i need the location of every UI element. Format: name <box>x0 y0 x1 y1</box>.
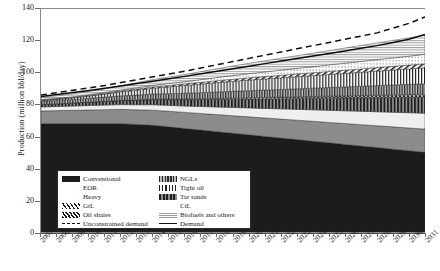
y-axis-tick-label: 40 <box>0 164 34 173</box>
y-axis-tick-label: 120 <box>0 35 34 44</box>
legend-swatch-white-icon <box>62 194 80 200</box>
legend-item-gtl[interactable]: GtL <box>62 201 149 210</box>
y-axis-tick-label: 0 <box>0 228 34 237</box>
legend-swatch-dotted-icon <box>159 203 177 209</box>
legend-label: Conventional <box>83 175 121 183</box>
y-axis-tick-label: 100 <box>0 67 34 76</box>
legend-swatch-horizontal-stripe-icon <box>159 212 177 218</box>
legend-swatch-dashed-line-icon <box>62 221 80 227</box>
legend-label: NGLs <box>180 175 197 183</box>
y-axis-tick-label: 140 <box>0 3 34 12</box>
legend-column-right: NGLsTight oilTar sandsCtLBiofuels and ot… <box>159 174 246 228</box>
legend-swatch-cross-hatch-icon <box>62 212 80 218</box>
legend-label: EOR <box>83 184 97 192</box>
legend-swatch-vertical-stripe-icon <box>159 185 177 191</box>
x-axis-tick-label: 2031 <box>423 227 440 244</box>
legend-swatch-solid-line-icon <box>159 221 177 227</box>
legend-item-heavy[interactable]: Heavy <box>62 192 149 201</box>
legend-item-ctl[interactable]: CtL <box>159 201 246 210</box>
y-axis-tick-label: 60 <box>0 132 34 141</box>
legend-swatch-vertical-wide-icon <box>159 194 177 200</box>
legend-item-oil-shales[interactable]: Oil shales <box>62 210 149 219</box>
legend-item-ngls[interactable]: NGLs <box>159 174 246 183</box>
legend-item-tar-sands[interactable]: Tar sands <box>159 192 246 201</box>
legend-item-demand[interactable]: Demand <box>159 219 246 228</box>
legend-item-biofuels-and-others[interactable]: Biofuels and others <box>159 210 246 219</box>
legend-label: Oil shales <box>83 211 111 219</box>
y-axis-tick-label: 80 <box>0 99 34 108</box>
legend-item-tight-oil[interactable]: Tight oil <box>159 183 246 192</box>
y-axis-tick-label: 20 <box>0 196 34 205</box>
legend-label: GtL <box>83 202 94 210</box>
legend-item-unconstrained-demand[interactable]: Unconstrained demand <box>62 219 149 228</box>
legend-item-conventional[interactable]: Conventional <box>62 174 149 183</box>
legend-swatch-white-icon <box>62 185 80 191</box>
legend-label: CtL <box>180 202 191 210</box>
legend-label: Biofuels and others <box>180 211 234 219</box>
legend-swatch-vertical-dense-icon <box>159 176 177 182</box>
legend-label: Tight oil <box>180 184 204 192</box>
legend-label: Unconstrained demand <box>83 220 148 228</box>
legend-swatch-diagonal-hatch-icon <box>62 203 80 209</box>
legend-label: Heavy <box>83 193 101 201</box>
legend-label: Demand <box>180 220 204 228</box>
legend-label: Tar sands <box>180 193 207 201</box>
chart-legend: ConventionalEORHeavyGtLOil shalesUnconst… <box>57 170 251 229</box>
legend-swatch-solid-dark-icon <box>62 176 80 182</box>
legend-item-eor[interactable]: EOR <box>62 183 149 192</box>
legend-column-left: ConventionalEORHeavyGtLOil shalesUnconst… <box>62 174 149 228</box>
